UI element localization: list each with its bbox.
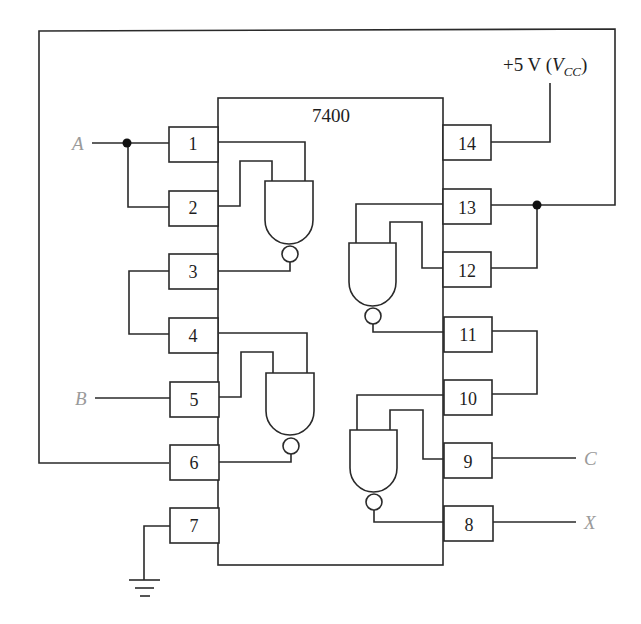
svg-text:10: 10 bbox=[459, 389, 477, 409]
pin-12: 12 bbox=[443, 252, 491, 287]
signal-label-b: B bbox=[75, 388, 87, 409]
svg-text:9: 9 bbox=[464, 452, 473, 472]
pin-10: 10 bbox=[444, 380, 492, 415]
ground-icon bbox=[129, 580, 160, 596]
pin-6: 6 bbox=[170, 445, 219, 480]
circuit-diagram: 7400 1 2 3 4 5 6 7 14 13 12 11 bbox=[0, 0, 641, 624]
pin-7: 7 bbox=[170, 508, 219, 543]
svg-text:1: 1 bbox=[189, 134, 198, 154]
input-a-branch-wire bbox=[128, 143, 169, 207]
pin-9: 9 bbox=[444, 443, 492, 478]
pin12-wire bbox=[491, 205, 537, 268]
ground-wire bbox=[144, 526, 170, 580]
svg-text:14: 14 bbox=[458, 134, 476, 154]
svg-text:3: 3 bbox=[189, 262, 198, 282]
jumper-pin3-pin4 bbox=[129, 271, 169, 334]
signal-label-a: A bbox=[70, 133, 84, 154]
pin-1: 1 bbox=[169, 127, 218, 162]
junction-dot-13 bbox=[533, 201, 542, 210]
pin-11: 11 bbox=[444, 317, 492, 352]
svg-text:12: 12 bbox=[458, 261, 476, 281]
svg-text:7: 7 bbox=[190, 516, 199, 536]
svg-text:4: 4 bbox=[189, 326, 198, 346]
signal-label-x: X bbox=[583, 512, 597, 533]
svg-text:5: 5 bbox=[190, 390, 199, 410]
svg-text:2: 2 bbox=[189, 198, 198, 218]
pin-5: 5 bbox=[170, 382, 219, 417]
chip-label: 7400 bbox=[312, 105, 350, 126]
inverter-bubble bbox=[283, 438, 299, 454]
pin-14: 14 bbox=[443, 125, 491, 160]
pin-13: 13 bbox=[443, 189, 491, 224]
jumper-pin11-pin10 bbox=[492, 331, 537, 394]
pin-3: 3 bbox=[169, 254, 218, 289]
inverter-bubble bbox=[365, 308, 381, 324]
inverter-bubble bbox=[282, 246, 298, 262]
inverter-bubble bbox=[366, 494, 382, 510]
pin-4: 4 bbox=[169, 318, 218, 353]
signal-label-c: C bbox=[584, 448, 597, 469]
svg-text:13: 13 bbox=[458, 198, 476, 218]
vcc-wire bbox=[491, 83, 550, 142]
junction-dot-a bbox=[123, 139, 132, 148]
pin-8: 8 bbox=[444, 506, 493, 541]
svg-text:6: 6 bbox=[190, 453, 199, 473]
vcc-label: +5 V (VCC) bbox=[503, 54, 587, 79]
svg-text:8: 8 bbox=[465, 515, 474, 535]
svg-text:11: 11 bbox=[459, 325, 476, 345]
pin-2: 2 bbox=[169, 191, 218, 226]
